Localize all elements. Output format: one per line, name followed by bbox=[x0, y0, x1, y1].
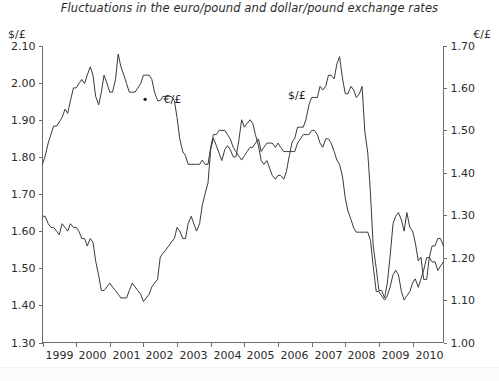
x-axis-tick-label: 2001 bbox=[113, 349, 141, 362]
chart-figure: Fluctuations in the euro/pound and dolla… bbox=[0, 0, 499, 381]
exchange-rate-line-chart: 1.301.401.501.601.701.801.902.002.10 1.0… bbox=[0, 0, 499, 381]
right-axis-tick-label: 1.00 bbox=[451, 337, 476, 350]
right-axis: 1.001.101.201.301.401.501.601.70 bbox=[444, 40, 476, 350]
right-axis-tick-label: 1.60 bbox=[451, 82, 476, 95]
right-axis-tick-label: 1.40 bbox=[451, 167, 476, 180]
series-inline-label: $/£ bbox=[288, 89, 306, 102]
x-axis-tick-label: 2006 bbox=[281, 349, 309, 362]
series-annotations: €/£$/£ bbox=[144, 89, 306, 106]
left-axis-tick-label: 1.90 bbox=[11, 114, 36, 127]
x-axis-tick-label: 2007 bbox=[315, 349, 343, 362]
left-axis-tick-label: 1.80 bbox=[11, 151, 36, 164]
series-inline-label: €/£ bbox=[164, 93, 182, 106]
x-axis-tick-label: 2000 bbox=[79, 349, 107, 362]
left-axis-tick-label: 1.70 bbox=[11, 188, 36, 201]
figure-bottom-border bbox=[0, 367, 499, 381]
left-axis-tick-label: 2.00 bbox=[11, 77, 36, 90]
x-axis-tick-label: 2004 bbox=[214, 349, 242, 362]
right-axis-tick-label: 1.30 bbox=[451, 209, 476, 222]
x-axis-tick-label: 2009 bbox=[382, 349, 410, 362]
x-axis-tick-label: 2002 bbox=[146, 349, 174, 362]
left-axis: 1.301.401.501.601.701.801.902.002.10 bbox=[11, 40, 43, 350]
series-line-usd-gbp bbox=[43, 57, 444, 302]
series-line-eur-gbp bbox=[43, 54, 444, 300]
x-axis: 1999200020012002200320042005200620072008… bbox=[43, 343, 444, 362]
x-axis-tick-label: 1999 bbox=[46, 349, 74, 362]
x-axis-tick-label: 2008 bbox=[348, 349, 376, 362]
x-axis-tick-label: 2010 bbox=[416, 349, 444, 362]
data-point-marker bbox=[144, 98, 147, 101]
left-axis-tick-label: 1.30 bbox=[11, 337, 36, 350]
right-axis-tick-label: 1.70 bbox=[451, 40, 476, 53]
x-axis-tick-label: 2003 bbox=[180, 349, 208, 362]
right-axis-tick-label: 1.50 bbox=[451, 124, 476, 137]
left-axis-tick-label: 2.10 bbox=[11, 40, 36, 53]
left-axis-tick-label: 1.60 bbox=[11, 225, 36, 238]
left-axis-tick-label: 1.40 bbox=[11, 299, 36, 312]
x-axis-tick-label: 2005 bbox=[247, 349, 275, 362]
right-axis-tick-label: 1.10 bbox=[451, 294, 476, 307]
right-axis-tick-label: 1.20 bbox=[451, 252, 476, 265]
series-lines bbox=[43, 54, 444, 302]
left-axis-tick-label: 1.50 bbox=[11, 262, 36, 275]
